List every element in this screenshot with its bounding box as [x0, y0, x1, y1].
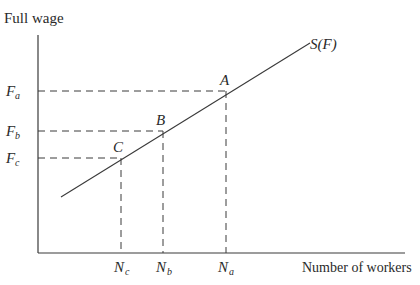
x-axis-label: Number of workers [302, 260, 412, 275]
svg-text:a: a [15, 90, 20, 101]
svg-text:a: a [229, 266, 234, 277]
svg-text:N: N [217, 259, 229, 275]
curve-label: S(F) [310, 36, 337, 53]
x-tick-nc: N c [113, 259, 130, 277]
x-tick-nb: N b [155, 259, 172, 277]
svg-text:N: N [155, 259, 167, 275]
supply-diagram: Full wage Number of workers S(F) A B C F… [0, 0, 420, 285]
svg-text:N: N [113, 259, 125, 275]
svg-text:c: c [125, 266, 130, 277]
y-axis-label: Full wage [4, 10, 64, 26]
point-label-a: A [219, 72, 230, 88]
y-tick-fb: F b [5, 123, 20, 141]
svg-text:b: b [167, 266, 172, 277]
y-tick-fa: F a [5, 83, 20, 101]
svg-text:c: c [15, 157, 20, 168]
svg-text:b: b [15, 130, 20, 141]
x-tick-na: N a [217, 259, 234, 277]
point-label-b: B [156, 112, 165, 128]
y-tick-fc: F c [5, 150, 20, 168]
supply-curve [61, 43, 310, 197]
point-label-c: C [113, 139, 124, 155]
